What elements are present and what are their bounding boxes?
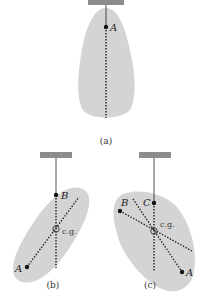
- cg-label: c.g.: [62, 227, 77, 236]
- support-bar: [88, 0, 124, 5]
- point-c: [152, 201, 156, 205]
- support-bar: [139, 152, 171, 158]
- point-a: [180, 270, 184, 274]
- point-a-label: A: [109, 22, 117, 33]
- point-c-label: C: [143, 197, 151, 208]
- caption-b: (b): [47, 280, 60, 290]
- point-a: [104, 25, 108, 29]
- suspended-object: [78, 8, 134, 118]
- caption-a: (a): [100, 136, 112, 146]
- point-a-label: A: [185, 267, 193, 278]
- support-bar: [40, 152, 72, 158]
- center-of-gravity-diagram: A (a) c.g. B A (b) c.g. B C A (c): [0, 0, 209, 299]
- panel-b: c.g. B A (b): [13, 152, 89, 290]
- panel-a: A (a): [78, 0, 134, 146]
- point-b-label: B: [60, 190, 68, 201]
- panel-c: c.g. B C A (c): [114, 152, 195, 291]
- point-a: [25, 265, 29, 269]
- point-b-label: B: [120, 197, 128, 208]
- point-a-label: A: [14, 263, 22, 274]
- cg-label: c.g.: [160, 220, 175, 229]
- point-b: [54, 193, 58, 197]
- point-b: [118, 209, 122, 213]
- caption-c: (c): [144, 280, 156, 290]
